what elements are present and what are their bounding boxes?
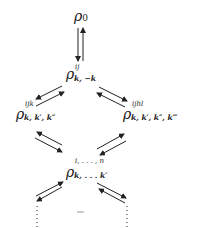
- rho-superscript: ijhl: [132, 101, 143, 108]
- rho-symbol: ρ: [16, 106, 24, 122]
- node-rho0: ρ0: [74, 8, 88, 24]
- rho-symbol: ρ: [66, 164, 74, 180]
- rho-subscript: k, . . . k′: [74, 172, 107, 180]
- rho-subscript: k, −k: [74, 75, 96, 83]
- rho-superscript: ijk: [25, 101, 34, 108]
- rho-subscript: k, k′, k″: [24, 114, 55, 122]
- rho-superscript: ij: [75, 64, 79, 71]
- rho-superscript: i, . . . , n: [75, 158, 104, 165]
- node-rho-ijhl: ρ ijhl k, k′, k″, k‴: [123, 106, 199, 126]
- node-rho-ijk: ρ ijk k, k′, k″: [16, 106, 76, 126]
- rho-subscript: 0: [82, 13, 88, 23]
- rho-symbol: ρ: [66, 66, 74, 82]
- rho-symbol: ρ: [74, 8, 82, 24]
- rho-subscript: k, k′, k″, k‴: [131, 114, 178, 122]
- rho-symbol: ρ: [123, 106, 131, 122]
- node-rho-n: ρ i, . . . , n k, . . . k′: [66, 164, 116, 184]
- node-rho-ij: ρ ij k, −k: [66, 66, 116, 86]
